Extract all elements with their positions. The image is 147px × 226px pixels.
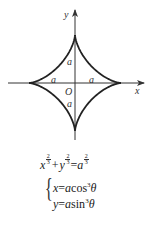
y-axis-label: y (64, 10, 68, 20)
astroid-figure: y x O a a a a x23+y23=a23 { x=acos3θ y=a… (0, 0, 147, 226)
eq-plus: + (52, 158, 59, 172)
cartesian-equation: x23+y23=a23 (40, 154, 89, 172)
parametric-equation-x: x=acos3θ (53, 178, 97, 195)
segment-label-right: a (89, 75, 94, 85)
segment-label-bottom: a (67, 99, 72, 109)
left-brace: { (45, 174, 53, 202)
segment-label-top: a (67, 57, 72, 67)
origin-label: O (65, 87, 72, 97)
segment-label-left: a (51, 75, 56, 85)
exponent-two-thirds: 23 (46, 154, 51, 165)
eq-a: a (77, 158, 83, 172)
x-axis-label: x (135, 86, 139, 96)
exponent-two-thirds: 23 (84, 154, 89, 165)
eq-y: y (60, 158, 65, 172)
parametric-equation-y: y=asin3θ (53, 194, 95, 211)
eq-x: x (40, 158, 45, 172)
